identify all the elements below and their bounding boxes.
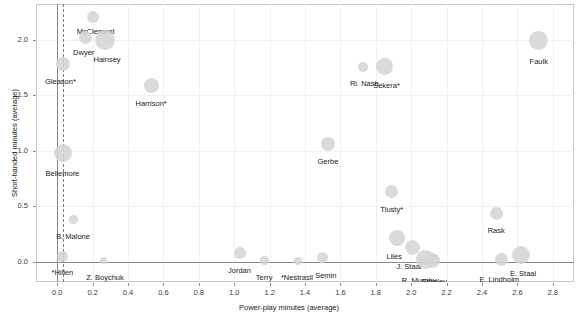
gridline-horizontal	[36, 95, 574, 96]
gridline-vertical	[93, 4, 94, 282]
data-point-bubble[interactable]	[95, 30, 115, 50]
x-tick-mark	[340, 283, 341, 286]
data-point-label: Gleason*	[45, 77, 76, 86]
gridline-vertical	[270, 4, 271, 282]
y-tick-mark	[33, 206, 36, 207]
y-tick-label: 0.0	[4, 257, 28, 266]
data-point-label: Jordan	[228, 266, 251, 275]
gridline-horizontal	[36, 40, 574, 41]
data-point-label: B. Malone	[56, 232, 90, 241]
data-point-label: Z. Boychuk	[86, 273, 124, 282]
data-point-label: *Hillen	[52, 268, 74, 277]
y-tick-label: 0.5	[4, 201, 28, 210]
data-point-label: Harrison*	[136, 99, 167, 108]
data-point-bubble[interactable]	[529, 31, 548, 50]
x-tick-mark	[270, 283, 271, 286]
gridline-vertical	[553, 4, 554, 282]
x-tick-label: 0.6	[148, 288, 178, 297]
x-tick-label: 0.8	[184, 288, 214, 297]
data-point-label: Sekera*	[373, 81, 400, 90]
data-point-bubble[interactable]	[385, 185, 398, 198]
x-tick-mark	[163, 283, 164, 286]
y-tick-label: 2.0	[4, 35, 28, 44]
x-tick-label: 1.8	[361, 288, 391, 297]
x-tick-mark	[199, 283, 200, 286]
data-point-label: Bellemore	[46, 169, 80, 178]
y-tick-mark	[33, 151, 36, 152]
data-point-label: Rask	[488, 226, 505, 235]
x-tick-mark	[234, 283, 235, 286]
data-point-bubble[interactable]	[425, 253, 440, 268]
data-point-label: *Nestrasil	[281, 273, 313, 282]
x-tick-label: 1.6	[325, 288, 355, 297]
data-point-bubble[interactable]	[389, 230, 405, 246]
x-tick-label: 0.4	[113, 288, 143, 297]
data-point-bubble[interactable]	[144, 78, 159, 93]
gridline-vertical	[517, 4, 518, 282]
x-tick-mark	[376, 283, 377, 286]
gridline-vertical	[482, 4, 483, 282]
gridline-vertical	[234, 4, 235, 282]
x-tick-label: 1.4	[290, 288, 320, 297]
data-point-bubble[interactable]	[321, 137, 335, 151]
data-point-label: Liles	[387, 252, 402, 261]
x-tick-label: 2.8	[538, 288, 568, 297]
y-tick-mark	[33, 95, 36, 96]
x-tick-label: 1.2	[255, 288, 285, 297]
gridline-vertical	[340, 4, 341, 282]
data-point-bubble[interactable]	[87, 11, 99, 23]
data-point-label: Dwyer	[73, 48, 94, 57]
x-tick-mark	[553, 283, 554, 286]
data-point-label: Hainsey	[94, 55, 121, 64]
x-tick-mark	[447, 283, 448, 286]
scatter-chart: McClementDwyerHainseyGleason*Harrison*Ri…	[0, 0, 578, 316]
gridline-vertical	[128, 4, 129, 282]
data-point-bubble[interactable]	[490, 207, 503, 220]
x-axis-title: Power-play minutes (average)	[0, 303, 578, 312]
gridline-vertical	[199, 4, 200, 282]
x-tick-mark	[517, 283, 518, 286]
x-tick-label: 0.0	[42, 288, 72, 297]
y-tick-mark	[33, 262, 36, 263]
data-point-label: Semin	[315, 271, 336, 280]
gridline-vertical	[305, 4, 306, 282]
gridline-vertical	[376, 4, 377, 282]
data-point-label: Stanley	[422, 277, 447, 282]
data-point-bubble[interactable]	[234, 247, 246, 259]
data-point-bubble[interactable]	[376, 58, 393, 75]
data-point-bubble[interactable]	[294, 257, 302, 265]
data-point-bubble[interactable]	[56, 57, 70, 71]
x-tick-mark	[128, 283, 129, 286]
x-tick-label: 2.2	[432, 288, 462, 297]
data-point-bubble[interactable]	[495, 253, 508, 266]
gridline-vertical	[163, 4, 164, 282]
y-tick-mark	[33, 40, 36, 41]
data-point-bubble[interactable]	[69, 215, 78, 224]
zero-line-horizontal	[36, 262, 574, 263]
y-axis-title: Short-handed minutes (average)	[10, 89, 19, 197]
x-tick-label: 1.0	[219, 288, 249, 297]
data-point-label: Faulk	[530, 57, 548, 66]
x-tick-label: 2.0	[396, 288, 426, 297]
plot-area: McClementDwyerHainseyGleason*Harrison*Ri…	[36, 4, 574, 282]
x-tick-mark	[411, 283, 412, 286]
data-point-bubble[interactable]	[57, 251, 68, 262]
data-point-bubble[interactable]	[358, 62, 368, 72]
x-tick-mark	[57, 283, 58, 286]
x-tick-mark	[482, 283, 483, 286]
x-tick-mark	[93, 283, 94, 286]
data-point-bubble[interactable]	[79, 31, 92, 44]
x-tick-label: 0.2	[78, 288, 108, 297]
x-tick-mark	[305, 283, 306, 286]
gridline-vertical	[447, 4, 448, 282]
data-point-label: E. Lindholm	[479, 275, 519, 282]
gridline-horizontal	[36, 151, 574, 152]
data-point-label: Gerbe	[318, 157, 339, 166]
data-point-bubble[interactable]	[260, 256, 269, 265]
data-point-bubble[interactable]	[100, 257, 107, 264]
data-point-label: Terry	[256, 273, 273, 282]
data-point-label: Tlusty*	[380, 205, 403, 214]
data-point-bubble[interactable]	[54, 144, 72, 162]
x-tick-label: 2.4	[467, 288, 497, 297]
x-tick-label: 2.6	[502, 288, 532, 297]
